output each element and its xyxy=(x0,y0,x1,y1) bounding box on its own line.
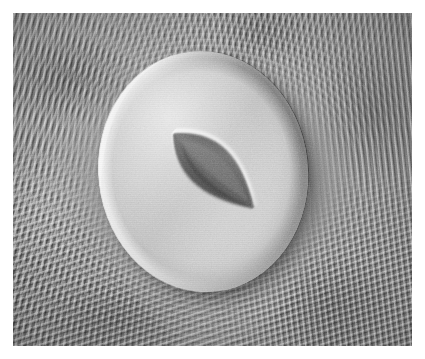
micrograph-figure xyxy=(0,0,425,359)
guard-cell-grain xyxy=(87,41,326,346)
complex-rim-shadow xyxy=(86,40,322,304)
complex-rim-highlight xyxy=(86,40,322,304)
micrograph-image xyxy=(13,13,412,346)
guard-cell-modelling xyxy=(87,41,321,303)
stomatal-complex xyxy=(87,41,321,303)
